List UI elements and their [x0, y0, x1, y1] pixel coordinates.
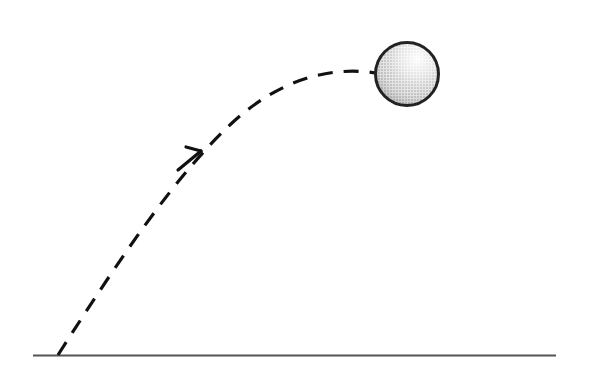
figure-canvas — [0, 0, 589, 374]
trajectory-figure-svg — [0, 0, 589, 374]
dashed-trajectory-path — [58, 71, 376, 355]
projectile-ball — [376, 43, 439, 106]
arrowhead-barb-right — [186, 147, 201, 151]
